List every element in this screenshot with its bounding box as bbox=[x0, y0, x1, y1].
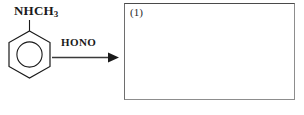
benzene-ring-hexagon bbox=[9, 31, 50, 78]
product-answer-box[interactable]: (1) bbox=[124, 3, 295, 100]
substituent-label-text: NHCH bbox=[14, 3, 54, 18]
reaction-arrow-head-icon bbox=[108, 53, 119, 63]
aromatic-circle-icon bbox=[17, 42, 42, 67]
reagent-label: HONO bbox=[61, 37, 96, 48]
substituent-label-subscript: 3 bbox=[54, 9, 59, 19]
substituent-label: NHCH3 bbox=[14, 4, 59, 17]
answer-box-label: (1) bbox=[130, 7, 143, 18]
